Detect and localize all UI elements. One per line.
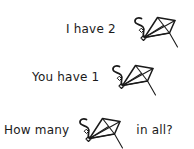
problem-line-3-text-after: in all? [136, 124, 173, 136]
problem-line-3: How many in all? [4, 110, 173, 149]
worksheet-canvas: I have 2 You have 1 [0, 0, 194, 149]
problem-line-1: I have 2 [66, 9, 182, 49]
kite-icon [132, 11, 182, 49]
kite-icon [77, 112, 127, 149]
problem-line-3-text-before: How many [4, 124, 69, 136]
kite-icon [110, 59, 160, 97]
problem-line-2: You have 1 [32, 57, 160, 97]
problem-line-1-text: I have 2 [66, 23, 116, 35]
problem-line-2-text: You have 1 [32, 71, 99, 83]
